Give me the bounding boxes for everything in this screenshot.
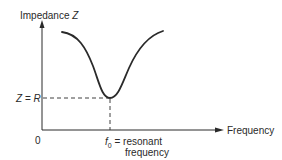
y-axis-arrow-icon (40, 20, 45, 28)
x-axis-arrow-icon (215, 128, 224, 133)
f0-text-line1: = resonant (112, 136, 162, 147)
y-axis-variable: Z (72, 10, 78, 21)
y-axis-title-text: Impedance (20, 10, 69, 21)
origin-label: 0 (35, 135, 41, 146)
f0-text-line2: frequency (125, 147, 169, 158)
equals-sign: = (22, 93, 33, 104)
r-symbol: R (34, 93, 41, 104)
impedance-curve (62, 31, 163, 98)
x-axis-title: Frequency (227, 125, 274, 136)
z-equals-r-label: Z = R (16, 93, 41, 104)
y-axis-title: Impedance Z (20, 10, 78, 21)
